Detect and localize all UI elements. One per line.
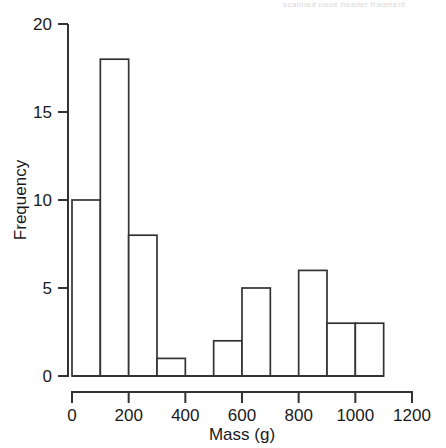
histogram-bar xyxy=(299,270,327,376)
histogram-bar xyxy=(214,341,242,376)
y-tick-label: 10 xyxy=(33,191,52,210)
x-tick-label: 1200 xyxy=(393,406,431,425)
histogram-bar xyxy=(355,323,383,376)
x-axis-ticks: 020040060080010001200 xyxy=(67,392,431,425)
x-tick-label: 1000 xyxy=(336,406,374,425)
histogram-bar xyxy=(242,288,270,376)
y-axis-label: Frequency xyxy=(11,159,30,240)
histogram-figure: scanned page header fragment 05101520 02… xyxy=(0,0,446,448)
x-axis-label: Mass (g) xyxy=(209,425,275,444)
histogram-bar xyxy=(129,235,157,376)
y-tick-label: 0 xyxy=(43,367,52,386)
x-tick-label: 600 xyxy=(228,406,256,425)
x-tick-label: 400 xyxy=(171,406,199,425)
histogram-bar xyxy=(72,200,100,376)
y-axis-ticks: 05101520 xyxy=(33,15,68,386)
histogram-bar xyxy=(157,358,185,376)
x-tick-label: 0 xyxy=(67,406,76,425)
y-tick-label: 15 xyxy=(33,103,52,122)
histogram-bar xyxy=(100,59,128,376)
histogram-plot: 05101520 020040060080010001200 Mass (g) … xyxy=(0,0,446,448)
y-tick-label: 20 xyxy=(33,15,52,34)
histogram-bar xyxy=(327,323,355,376)
y-tick-label: 5 xyxy=(43,279,52,298)
x-tick-label: 200 xyxy=(114,406,142,425)
x-tick-label: 800 xyxy=(284,406,312,425)
histogram-bars xyxy=(72,59,384,376)
